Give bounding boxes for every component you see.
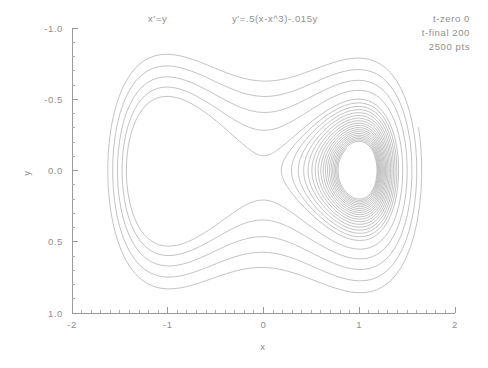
tick-label-layer: -2-10121.00.50.0-0.5-1.0 (44, 23, 458, 331)
equation-y-label: y'=.5(x-x^3)-.015y (232, 13, 318, 24)
x-tick-label: -1 (163, 319, 173, 330)
plot-canvas: x'=y y'=.5(x-x^3)-.015y t-zero 0 t-final… (0, 0, 488, 368)
t-final-label: t-final 200 (422, 27, 470, 38)
phase-portrait-figure: x'=y y'=.5(x-x^3)-.015y t-zero 0 t-final… (0, 0, 488, 368)
y-axis-title: y (21, 170, 32, 175)
y-tick-label: -1.0 (44, 23, 63, 34)
x-tick-label: 1 (356, 319, 362, 330)
y-tick-label: 0.0 (48, 165, 63, 176)
trajectory-layer (108, 54, 422, 292)
points-count-label: 2500 pts (429, 41, 470, 52)
x-axis-title: x (260, 341, 265, 352)
equation-x-label: x'=y (148, 13, 167, 24)
t-zero-label: t-zero 0 (433, 13, 470, 24)
x-tick-label: 2 (452, 319, 458, 330)
y-tick-label: 1.0 (48, 308, 63, 319)
x-tick-label: -2 (67, 319, 77, 330)
annotation-layer: x'=y y'=.5(x-x^3)-.015y t-zero 0 t-final… (148, 13, 470, 52)
x-tick-label: 0 (261, 319, 267, 330)
y-tick-label: -0.5 (44, 94, 63, 105)
axes-layer (72, 28, 455, 313)
trajectory-path (108, 54, 422, 292)
y-tick-label: 0.5 (48, 236, 63, 247)
